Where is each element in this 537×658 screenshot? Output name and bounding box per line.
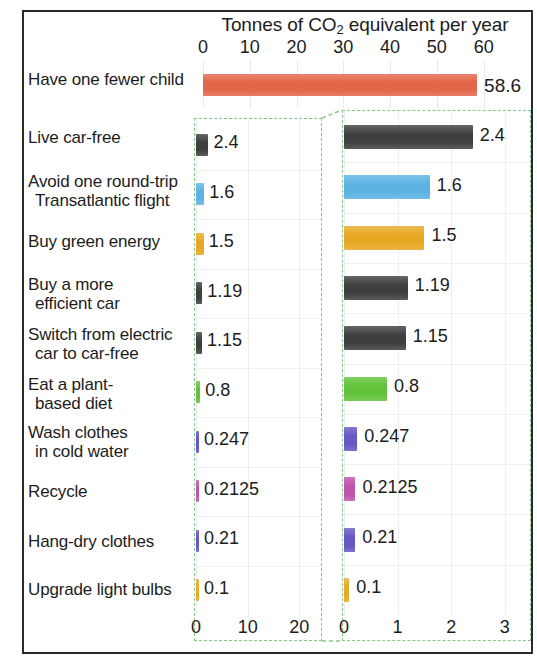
bar-value-label: 0.21 [362,527,397,548]
row-label-line2: efficient car [28,294,198,313]
bar [344,528,355,552]
bar [344,226,424,250]
row-label-line1: Buy a more [28,275,113,294]
row-label-line1: Recycle [28,482,87,501]
row-label-line1: Live car-free [28,128,121,147]
row-label-line1: Avoid one round-trip [28,172,178,191]
bar-value-label: 1.15 [207,330,242,351]
bar [196,480,199,502]
bar [344,175,430,199]
axis-tick-label: 20 [289,617,309,638]
bar-value-label: 2.4 [480,125,505,146]
row-label: Hang-dry clothes [28,532,198,551]
row-label-line2: in cold water [28,442,198,461]
inset-right-axis-ticks: 0123 [344,617,529,641]
bar-value-label: 0.1 [356,577,381,598]
gridline [196,467,320,468]
chart-figure: Tonnes of CO2 equivalent per year 010203… [0,0,537,658]
bar [196,134,208,156]
bar-value-label: 1.6 [437,175,462,196]
overview-tick-label: 10 [240,37,260,58]
gridline [344,213,529,214]
bar-value-label: 1.19 [415,275,450,296]
row-label-line1: Switch from electric [28,325,172,344]
axis-tick-label: 10 [238,617,258,638]
row-label: Buy a moreefficient car [28,275,198,313]
bar-value-label: 1.6 [209,182,234,203]
bar [344,276,408,300]
axis-tick-label: 0 [339,617,349,638]
bar [196,183,204,205]
row-label: Eat a plant-based diet [28,375,198,413]
bar [344,477,355,501]
overview-plot: 58.6 [203,60,493,108]
gridline [344,364,529,365]
gridline [344,414,529,415]
bar [196,530,199,552]
inset-panel-left: 2.41.61.51.191.150.80.2470.21250.210.1 [196,120,320,615]
bar-value-label: 58.6 [484,75,521,97]
gridline [196,269,320,270]
bar [344,427,357,451]
bar-value-label: 1.19 [207,281,242,302]
overview-tick-label: 30 [333,37,353,58]
bar-value-label: 0.247 [364,426,409,447]
row-label-line1: Wash clothes [28,423,128,442]
bar [196,282,202,304]
bar-have-one-fewer-child [203,74,477,96]
bar-value-label: 2.4 [213,132,238,153]
chart-axis-title: Tonnes of CO2 equivalent per year [196,14,534,37]
axis-tick-label: 2 [446,617,456,638]
row-label: Buy green energy [28,232,198,251]
overview-tick-label: 60 [474,37,494,58]
gridline [196,417,320,418]
bar-value-label: 0.247 [204,429,249,450]
gridline [344,565,529,566]
row-label: Live car-free [28,128,198,147]
bar [196,332,202,354]
bar [344,326,406,350]
overview-tick-label: 40 [380,37,400,58]
bar [344,377,387,401]
gridline [196,566,320,567]
overview-tick-label: 0 [198,37,208,58]
gridline [344,514,529,515]
gridline [344,162,529,163]
row-label: Have one fewer child [28,70,198,89]
row-label-line1: Hang-dry clothes [28,532,154,551]
axis-tick-label: 0 [191,617,201,638]
gridline [196,516,320,517]
axis-tick-label: 3 [500,617,510,638]
axis-title-post: equivalent per year [344,14,509,35]
row-label-line1: Have one fewer child [28,70,184,89]
axis-title-subscript: 2 [336,22,343,37]
overview-axis-ticks: 0102030405060 [0,37,537,59]
gridline [344,313,529,314]
row-label: Switch from electriccar to car-free [28,325,198,363]
row-label-line2: Transatlantic flight [28,191,198,210]
bar-value-label: 0.21 [204,528,239,549]
row-label-line2: based diet [28,394,198,413]
axis-tick-label: 1 [393,617,403,638]
bar [196,579,199,601]
bar-value-label: 1.5 [209,231,234,252]
bar-value-label: 0.1 [204,578,229,599]
axis-title-pre: Tonnes of CO [221,14,336,35]
bar [344,578,349,602]
bar [344,125,473,149]
gridline [196,170,320,171]
row-label: Wash clothesin cold water [28,423,198,461]
gridline [344,263,529,264]
bar-value-label: 0.2125 [362,477,417,498]
bar [196,381,200,403]
gridline [344,464,529,465]
bar [196,233,204,255]
overview-tick-label: 50 [427,37,447,58]
bar-value-label: 1.15 [413,326,448,347]
row-label: Recycle [28,482,198,501]
row-label-line1: Eat a plant- [28,375,113,394]
gridline [196,318,320,319]
bar-value-label: 0.8 [394,376,419,397]
inset-left-axis-ticks: 01020 [196,617,320,641]
overview-tick-label: 20 [287,37,307,58]
